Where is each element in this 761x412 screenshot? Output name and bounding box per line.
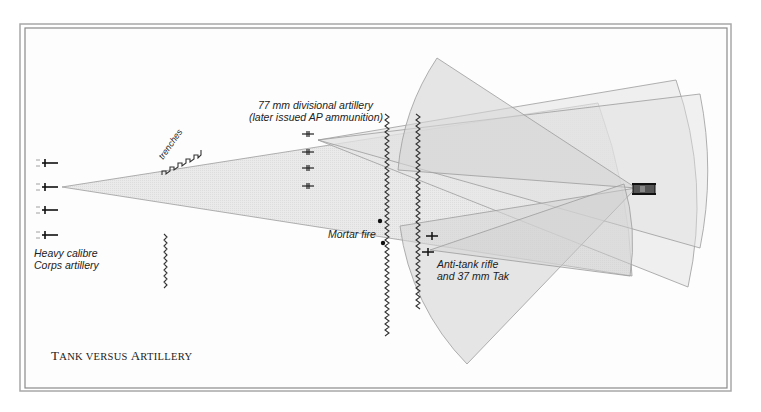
mortar-position-icon	[378, 219, 382, 223]
mortar-fire-label: Mortar fire	[328, 228, 376, 240]
tank-icon	[632, 183, 656, 195]
heavy-artillery-label: Corps artillery	[34, 259, 100, 271]
divisional-artillery-label: 77 mm divisional artillery	[258, 99, 374, 111]
divisional-artillery-label: (later issued AP ammunition)	[249, 111, 383, 123]
diagram-title: TANK VERSUS ARTILLERY	[51, 348, 192, 363]
anti-tank-label: Anti-tank rifle	[436, 258, 498, 270]
mortar-position-icon	[381, 241, 385, 245]
tank-versus-artillery-diagram: 77 mm divisional artillery (later issued…	[0, 0, 761, 412]
heavy-artillery-label: Heavy calibre	[34, 247, 98, 259]
anti-tank-label: and 37 mm Tak	[437, 270, 510, 282]
